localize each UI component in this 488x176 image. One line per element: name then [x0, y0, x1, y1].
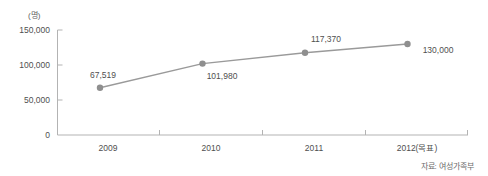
data-point-marker[interactable]: [97, 85, 103, 91]
data-point-label-2009: 67,519: [90, 70, 116, 80]
data-point-label-2012: 130,000: [423, 45, 454, 55]
source-note: 자료: 여성가족부: [421, 160, 474, 171]
x-tick-label-2010: 2010: [202, 143, 221, 153]
data-point-marker[interactable]: [404, 41, 410, 47]
data-point-label-2011: 117,370: [311, 34, 341, 44]
x-tick-label-2009: 2009: [99, 143, 118, 153]
data-point-marker[interactable]: [199, 60, 205, 66]
line-chart-figure: (명) 150,000 100,000 50,000 0 67,519 101,…: [0, 0, 488, 176]
data-point-label-2010: 101,980: [207, 71, 238, 81]
x-tick-label-2011: 2011: [305, 143, 323, 153]
data-point-marker[interactable]: [302, 50, 308, 56]
series-line: [100, 44, 408, 88]
x-tick-label-2012: 2012(목표): [397, 143, 438, 153]
